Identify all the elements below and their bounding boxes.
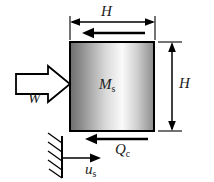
load-arrow-W-shape-icon bbox=[16, 66, 70, 102]
width-dimension-arrowhead-left-icon bbox=[70, 18, 80, 26]
height-dimension-label: H bbox=[179, 76, 190, 91]
width-dimension-arrowhead-right-icon bbox=[145, 18, 155, 26]
mass-block-label: Ms bbox=[99, 77, 115, 92]
mass-block-label-base: M bbox=[99, 76, 112, 92]
top-reaction-arrowhead-icon bbox=[82, 28, 94, 38]
cutting-force-label: Qc bbox=[115, 142, 130, 157]
width-dimension-label: H bbox=[101, 4, 112, 19]
displacement-label-base: u bbox=[85, 161, 93, 177]
load-arrow-label-W: W bbox=[28, 91, 41, 106]
width-dimension bbox=[70, 16, 155, 40]
cutting-force-label-base: Q bbox=[115, 141, 126, 157]
figure-container: H H W Ms Qc us bbox=[0, 0, 214, 182]
cutting-force-label-subscript: c bbox=[126, 148, 130, 159]
displacement-label-subscript: s bbox=[93, 168, 97, 179]
cutting-force-arrowhead-icon bbox=[85, 134, 97, 144]
height-dimension-arrowhead-bottom-icon bbox=[168, 121, 176, 131]
mass-block-label-subscript: s bbox=[112, 83, 116, 94]
displacement-label: us bbox=[85, 162, 96, 177]
fixed-wall-hatching bbox=[48, 133, 62, 178]
load-arrow-W bbox=[16, 66, 70, 102]
height-dimension-arrowhead-top-icon bbox=[168, 42, 176, 52]
top-reaction-arrow bbox=[82, 28, 145, 38]
fixed-wall-support bbox=[48, 133, 62, 178]
